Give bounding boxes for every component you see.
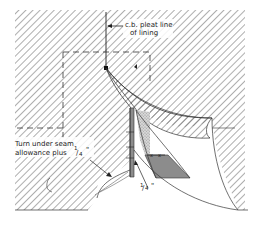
pleat-line-label: c.b. pleat line — [125, 21, 173, 29]
seam-strip-shaded — [130, 108, 134, 177]
turn-under-frac-den: 4 — [79, 151, 83, 157]
turn-under-label-1: Turn under seam — [14, 140, 74, 148]
quarter-inch-arrowhead — [134, 160, 138, 165]
cross-mark: x — [150, 152, 153, 158]
quarter-inch-mark: " — [151, 182, 154, 190]
pleat-line-label-2: of lining — [130, 29, 158, 37]
cross-mark: x — [158, 152, 161, 158]
turn-under-inch-mark: " — [86, 146, 89, 154]
turn-under-label-2: allowance plus — [15, 149, 67, 157]
stippled-region — [136, 110, 150, 155]
sewing-diagram: x x c.b. pleat line of lining Turn under… — [0, 0, 260, 225]
quarter-inch-den: 4 — [145, 185, 149, 191]
